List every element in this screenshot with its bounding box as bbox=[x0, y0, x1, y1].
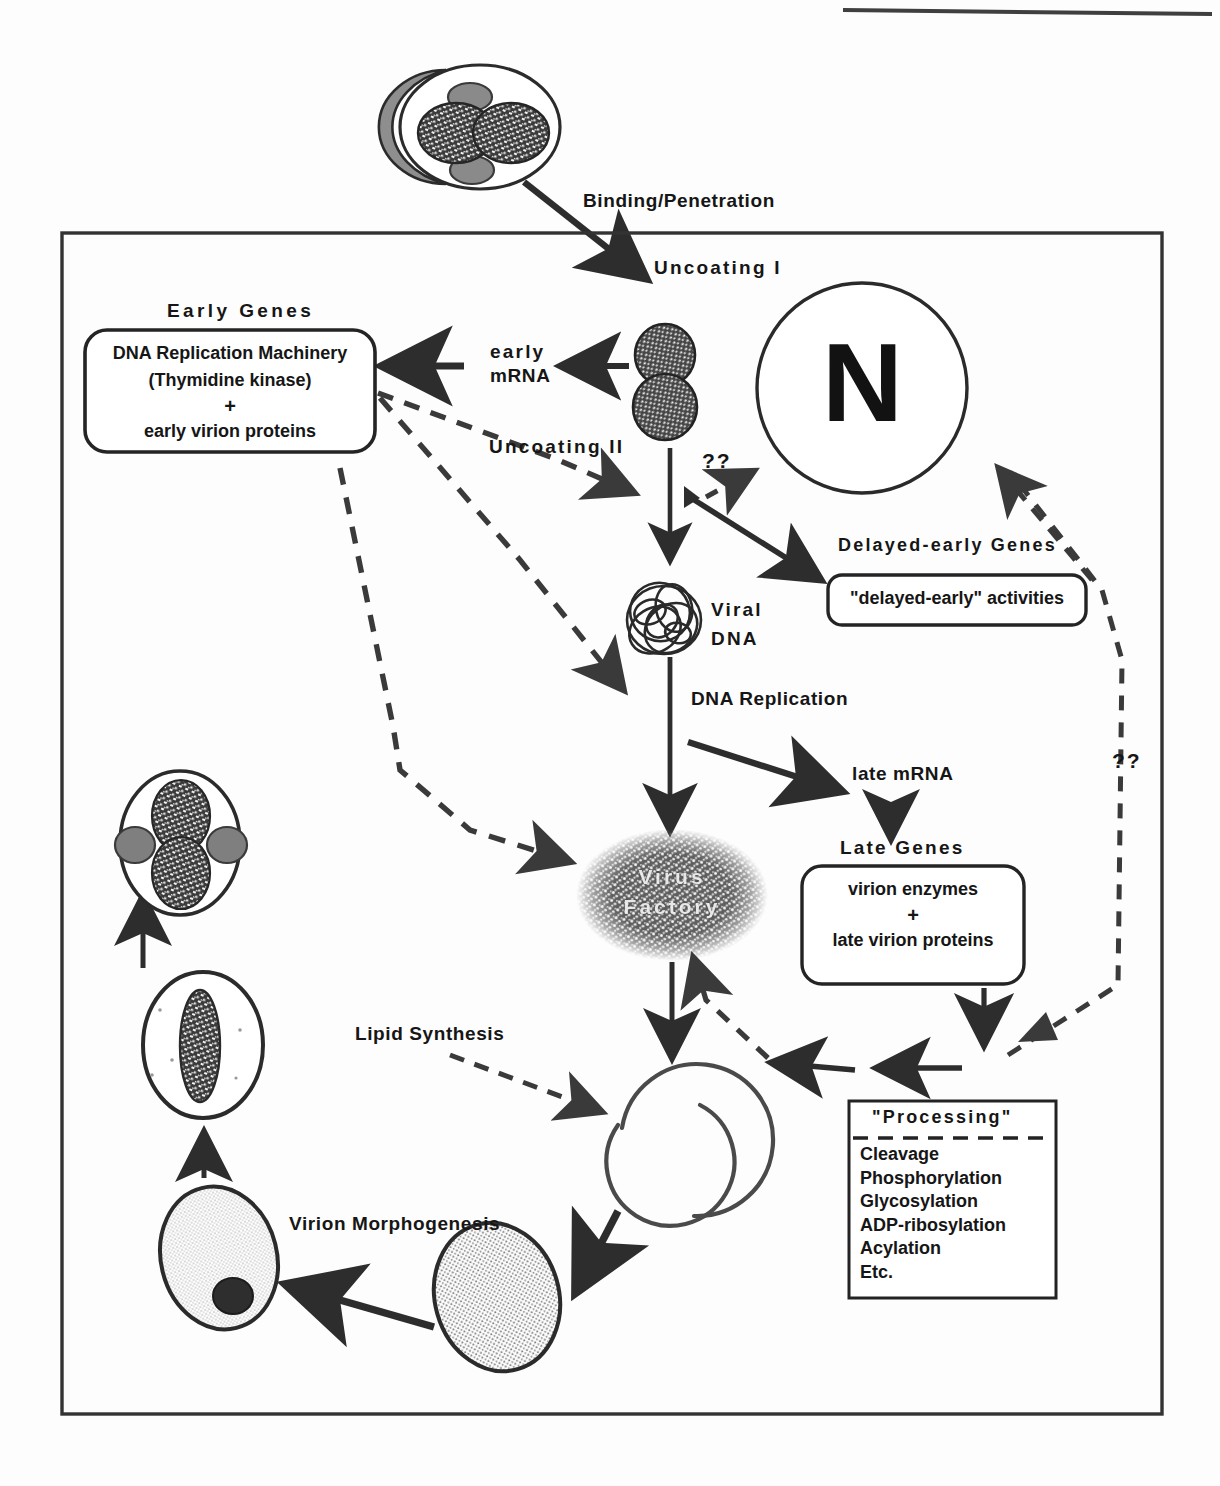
nucleus-label: N bbox=[822, 327, 903, 439]
viral-dna-icon bbox=[620, 573, 707, 663]
delayed-early-to-nucleus-dashed-arrow bbox=[1000, 470, 1092, 580]
crescent-membrane-icon bbox=[606, 1064, 773, 1226]
immature-virion-icon bbox=[115, 771, 247, 915]
early-mrna-label-line2: mRNA bbox=[490, 364, 550, 388]
dna-replication-label: DNA Replication bbox=[691, 687, 848, 711]
delayed-early-genes-title: Delayed-early Genes bbox=[838, 534, 1057, 557]
late-mrna-label: late mRNA bbox=[852, 762, 953, 786]
lipid-synthesis-label: Lipid Synthesis bbox=[355, 1022, 504, 1046]
early-genes-line-3: + bbox=[85, 395, 375, 418]
early-mrna-label-line1: early bbox=[490, 340, 545, 364]
processing-item-glycosylation: Glycosylation bbox=[860, 1190, 1006, 1214]
delayed-early-line-1: "delayed-early" activities bbox=[828, 585, 1086, 612]
late-mrna-branch-arrow bbox=[688, 742, 838, 790]
processing-item-acylation: Acylation bbox=[860, 1237, 1006, 1261]
early-genes-to-factory-dashed-arrow bbox=[340, 468, 568, 861]
processing-item-cleavage: Cleavage bbox=[860, 1143, 1006, 1167]
late-genes-title: Late Genes bbox=[840, 836, 964, 860]
diagram-vector-layer bbox=[0, 0, 1220, 1486]
viral-dna-label-line2: DNA bbox=[711, 627, 759, 651]
early-genes-box-content: DNA Replication Machinery (Thymidine kin… bbox=[85, 340, 375, 445]
late-genes-line-1: virion enzymes bbox=[802, 876, 1024, 903]
virion-morphogenesis-label: Virion Morphogenesis bbox=[289, 1212, 500, 1236]
nucleoid-virion-icon bbox=[143, 972, 263, 1118]
binding-penetration-label: Binding/Penetration bbox=[583, 189, 775, 213]
processing-item-etc: Etc. bbox=[860, 1261, 1006, 1285]
mature-virion-icon bbox=[379, 65, 560, 189]
intermediate-to-mature-arrow bbox=[291, 1286, 434, 1327]
viral-dna-label-line1: Viral bbox=[711, 598, 763, 622]
delayed-early-box-content: "delayed-early" activities bbox=[828, 585, 1086, 612]
diagram-page: Binding/Penetration Uncoating I Uncoatin… bbox=[0, 0, 1220, 1486]
early-genes-line-4: early virion proteins bbox=[85, 418, 375, 445]
nucleus-question-dashed-arrow bbox=[706, 472, 752, 497]
uncoating-2-label: Uncoating II bbox=[489, 435, 624, 459]
virus-factory-line-1: Virus bbox=[592, 862, 752, 892]
lipid-synthesis-dashed-arrow bbox=[450, 1055, 600, 1111]
processing-item-phosphorylation: Phosphorylation bbox=[860, 1167, 1006, 1191]
virus-factory-line-2: Factory bbox=[592, 892, 752, 922]
processing-list: Cleavage Phosphorylation Glycosylation A… bbox=[860, 1143, 1006, 1284]
mature-intracellular-virion-icon bbox=[145, 1174, 292, 1342]
early-genes-title: Early Genes bbox=[167, 299, 314, 323]
early-genes-line-1: DNA Replication Machinery bbox=[85, 340, 375, 367]
right-feedback-question-marks: ?? bbox=[1112, 748, 1142, 774]
virus-factory-label: Virus Factory bbox=[592, 862, 752, 923]
delayed-early-solid-arrow bbox=[684, 486, 818, 578]
nucleus-question-marks: ?? bbox=[702, 448, 732, 474]
page-edge-artifact bbox=[843, 10, 1212, 14]
late-genes-box-content: virion enzymes + late virion proteins bbox=[802, 876, 1024, 955]
uncoating-1-label: Uncoating I bbox=[654, 256, 782, 280]
crescent-to-intermediate-arrow bbox=[578, 1211, 618, 1288]
processing-title: "Processing" bbox=[872, 1106, 1013, 1129]
late-genes-line-2: + bbox=[802, 903, 1024, 927]
early-genes-line-2: (Thymidine kinase) bbox=[85, 367, 375, 394]
late-genes-line-3: late virion proteins bbox=[802, 927, 1024, 954]
processing-item-adp-ribosylation: ADP-ribosylation bbox=[860, 1214, 1006, 1238]
viral-core-icon bbox=[633, 324, 697, 440]
